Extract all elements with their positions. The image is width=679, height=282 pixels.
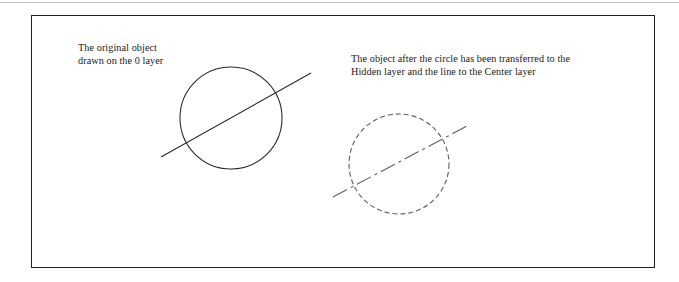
figure-root: The original object drawn on the 0 layer… bbox=[0, 0, 679, 282]
scan-rule-line bbox=[0, 2, 679, 3]
caption-transferred-object: The object after the circle has been tra… bbox=[351, 53, 631, 78]
caption-original-object: The original object drawn on the 0 layer bbox=[78, 42, 268, 67]
